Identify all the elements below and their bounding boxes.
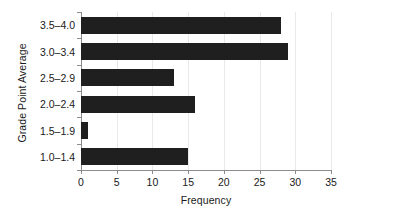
- bar: [81, 17, 281, 34]
- x-axis-tick: [295, 170, 296, 174]
- y-axis-tick: [77, 65, 81, 66]
- gridline: [117, 12, 118, 170]
- x-axis-tick: [331, 170, 332, 174]
- x-axis-tick: [188, 170, 189, 174]
- plot-area: [81, 12, 331, 170]
- bar-fill: [81, 43, 288, 60]
- x-axis-tick-label: 30: [283, 176, 307, 189]
- x-axis-tick-label: 15: [176, 176, 200, 189]
- x-axis-tick: [152, 170, 153, 174]
- x-axis-line: [81, 170, 331, 171]
- bar-fill: [81, 69, 174, 86]
- gridline: [331, 12, 332, 170]
- y-axis-tick: [77, 170, 81, 171]
- gridline: [224, 12, 225, 170]
- x-axis-tick: [260, 170, 261, 174]
- y-axis-tick-label: 1.5–1.9: [29, 125, 75, 137]
- y-axis-tick-label: 2.5–2.9: [29, 72, 75, 84]
- gridline: [295, 12, 296, 170]
- y-axis-tick-label: 1.0–1.4: [29, 151, 75, 163]
- y-axis-tick: [77, 117, 81, 118]
- bar: [81, 43, 288, 60]
- y-axis-tick-label: 2.0–2.4: [29, 98, 75, 110]
- gridline: [152, 12, 153, 170]
- bar-chart: Grade Point Average 1.0–1.41.5–1.92.0–2.…: [0, 0, 405, 220]
- x-axis-tick-label: 25: [248, 176, 272, 189]
- bar: [81, 69, 174, 86]
- bar-fill: [81, 122, 88, 139]
- bar: [81, 96, 195, 113]
- bar-fill: [81, 17, 281, 34]
- y-axis-tick: [77, 12, 81, 13]
- bar: [81, 148, 188, 165]
- x-axis-tick-label: 35: [319, 176, 343, 189]
- x-axis-tick: [224, 170, 225, 174]
- gridline: [260, 12, 261, 170]
- gridline: [188, 12, 189, 170]
- y-axis-tick: [77, 38, 81, 39]
- bar-fill: [81, 96, 195, 113]
- x-axis-tick: [117, 170, 118, 174]
- y-axis-tick: [77, 144, 81, 145]
- bar: [81, 122, 88, 139]
- bar-fill: [81, 148, 188, 165]
- x-axis-tick-label: 5: [105, 176, 129, 189]
- y-axis-tick-label: 3.0–3.4: [29, 46, 75, 58]
- x-axis-tick: [81, 170, 82, 174]
- y-axis-tick-label: 3.5–4.0: [29, 19, 75, 31]
- x-axis-tick-label: 0: [69, 176, 93, 189]
- y-axis-tick: [77, 91, 81, 92]
- x-axis-title: Frequency: [81, 194, 331, 206]
- x-axis-tick-label: 20: [212, 176, 236, 189]
- x-axis-tick-label: 10: [140, 176, 164, 189]
- y-axis-tick-labels: 1.0–1.41.5–1.92.0–2.42.5–2.93.0–3.43.5–4…: [26, 12, 75, 170]
